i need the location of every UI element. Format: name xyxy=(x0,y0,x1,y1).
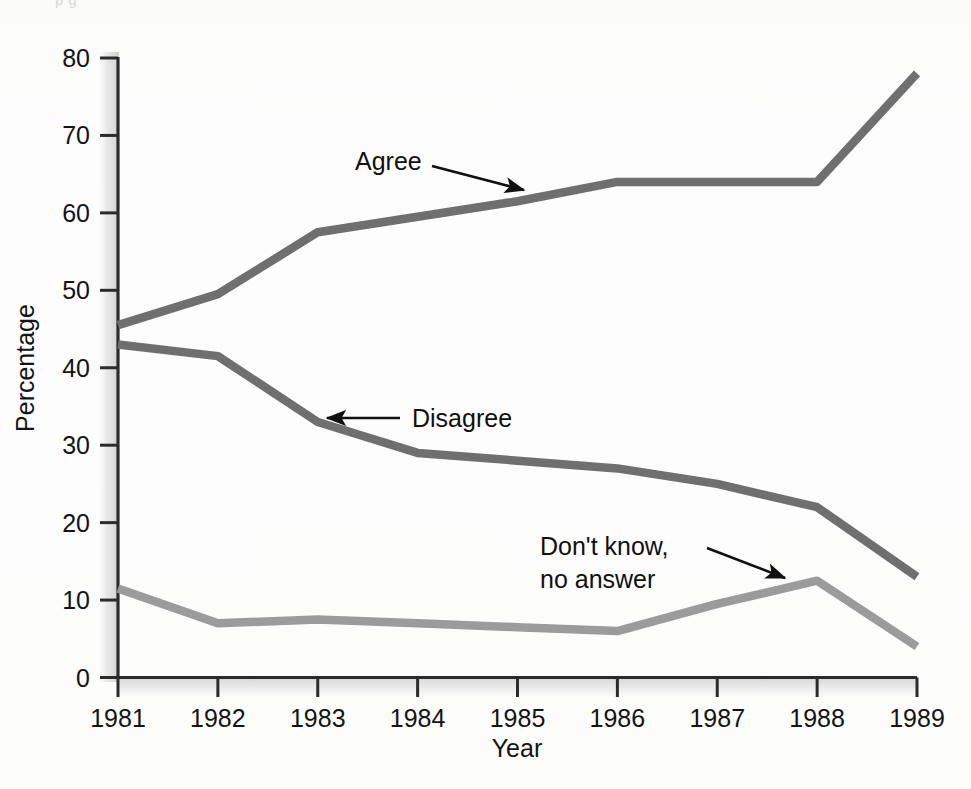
y-tick-label: 80 xyxy=(62,44,90,72)
y-tick-label: 20 xyxy=(62,509,90,537)
y-tick-label: 60 xyxy=(62,199,90,227)
y-tick-label: 0 xyxy=(76,664,90,692)
y-tick-label: 40 xyxy=(62,354,90,382)
y-tick-label: 10 xyxy=(62,586,90,614)
annotation-dont-know: Don't know,no answer xyxy=(540,532,785,593)
x-tick-label: 1985 xyxy=(490,704,546,732)
x-tick-label: 1981 xyxy=(90,704,146,732)
annotation-label-disagree: Disagree xyxy=(412,404,512,432)
series-line-agree xyxy=(118,73,917,325)
annotation-arrow-agree xyxy=(432,166,524,190)
annotation-label-agree: Agree xyxy=(355,147,422,175)
x-axis-title: Year xyxy=(492,734,543,762)
x-tick-label: 1983 xyxy=(290,704,346,732)
annotation-agree: Agree xyxy=(355,147,524,190)
chart-plot-area: 01020304050607080 1981198219831984198519… xyxy=(0,0,971,789)
annotation-disagree: Disagree xyxy=(327,404,512,432)
annotation-arrow-dont-know xyxy=(707,548,785,578)
line-chart: p g xyxy=(0,0,971,789)
y-tick-label: 50 xyxy=(62,276,90,304)
series-line-disagree xyxy=(118,345,917,577)
x-axis-tick-labels: 198119821983198419851986198719881989 xyxy=(90,704,945,732)
y-axis-title: Percentage xyxy=(11,304,39,432)
series-line-don-t-know-no-answer xyxy=(118,581,917,647)
x-tick-label: 1982 xyxy=(190,704,246,732)
annotations-group: AgreeDisagreeDon't know,no answer xyxy=(327,147,785,593)
annotation-label-dont-know: Don't know,no answer xyxy=(540,532,668,593)
y-tick-label: 70 xyxy=(62,121,90,149)
y-tick-label: 30 xyxy=(62,431,90,459)
x-tick-label: 1986 xyxy=(590,704,646,732)
x-tick-label: 1989 xyxy=(889,704,945,732)
x-tick-label: 1987 xyxy=(689,704,745,732)
data-series-group xyxy=(118,73,917,646)
x-tick-label: 1984 xyxy=(390,704,446,732)
y-axis-tick-labels: 01020304050607080 xyxy=(62,44,90,692)
x-tick-label: 1988 xyxy=(789,704,845,732)
